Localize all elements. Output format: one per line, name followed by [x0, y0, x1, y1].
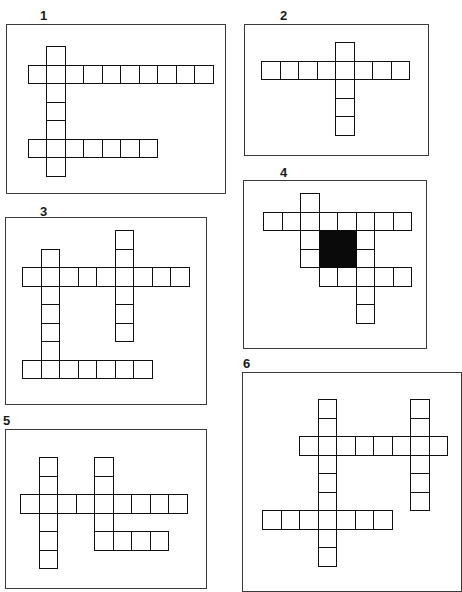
crossword-cell[interactable]: [131, 494, 151, 514]
crossword-cell[interactable]: [282, 212, 302, 232]
crossword-cell[interactable]: [139, 65, 159, 85]
crossword-cell[interactable]: [65, 139, 85, 159]
crossword-cell[interactable]: [318, 492, 338, 512]
crossword-cell[interactable]: [133, 267, 153, 287]
crossword-cell[interactable]: [94, 457, 114, 477]
crossword-cell[interactable]: [22, 267, 42, 287]
crossword-cell[interactable]: [46, 120, 66, 140]
crossword-cell[interactable]: [168, 494, 188, 514]
crossword-cell[interactable]: [41, 304, 61, 324]
crossword-cell[interactable]: [102, 139, 122, 159]
crossword-cell[interactable]: [41, 341, 61, 361]
crossword-cell[interactable]: [335, 116, 355, 136]
crossword-cell[interactable]: [410, 455, 430, 475]
crossword-cell[interactable]: [41, 360, 61, 380]
crossword-cell[interactable]: [46, 139, 66, 159]
crossword-cell[interactable]: [94, 531, 114, 551]
crossword-cell[interactable]: [115, 230, 135, 250]
crossword-cell[interactable]: [115, 360, 135, 380]
crossword-cell[interactable]: [356, 286, 376, 306]
crossword-cell[interactable]: [355, 510, 375, 530]
crossword-cell[interactable]: [120, 65, 140, 85]
crossword-cell[interactable]: [115, 304, 135, 324]
crossword-cell[interactable]: [299, 510, 319, 530]
crossword-cell[interactable]: [410, 436, 430, 456]
crossword-cell[interactable]: [318, 399, 338, 419]
crossword-cell[interactable]: [115, 267, 135, 287]
crossword-cell[interactable]: [59, 267, 79, 287]
crossword-cell[interactable]: [150, 494, 170, 514]
crossword-cell[interactable]: [393, 212, 413, 232]
crossword-cell[interactable]: [133, 360, 153, 380]
crossword-cell[interactable]: [356, 212, 376, 232]
crossword-cell[interactable]: [113, 531, 133, 551]
crossword-cell[interactable]: [335, 79, 355, 99]
crossword-cell[interactable]: [57, 494, 77, 514]
crossword-cell[interactable]: [194, 65, 214, 85]
crossword-cell[interactable]: [354, 61, 374, 81]
crossword-cell[interactable]: [22, 360, 42, 380]
crossword-cell[interactable]: [319, 267, 339, 287]
crossword-cell[interactable]: [336, 510, 356, 530]
crossword-cell[interactable]: [298, 61, 318, 81]
crossword-cell[interactable]: [410, 492, 430, 512]
crossword-cell[interactable]: [39, 476, 59, 496]
crossword-cell[interactable]: [262, 510, 282, 530]
crossword-cell[interactable]: [41, 249, 61, 269]
crossword-cell[interactable]: [28, 139, 48, 159]
crossword-cell[interactable]: [317, 61, 337, 81]
crossword-cell[interactable]: [300, 230, 320, 250]
crossword-cell[interactable]: [261, 61, 281, 81]
crossword-cell[interactable]: [410, 473, 430, 493]
crossword-cell[interactable]: [94, 513, 114, 533]
crossword-cell[interactable]: [46, 46, 66, 66]
crossword-cell[interactable]: [356, 249, 376, 269]
crossword-cell[interactable]: [300, 193, 320, 213]
crossword-cell[interactable]: [356, 267, 376, 287]
crossword-cell[interactable]: [59, 360, 79, 380]
crossword-cell[interactable]: [374, 212, 394, 232]
crossword-cell[interactable]: [170, 267, 190, 287]
crossword-cell[interactable]: [39, 513, 59, 533]
crossword-cell[interactable]: [96, 360, 116, 380]
crossword-cell[interactable]: [28, 65, 48, 85]
crossword-cell[interactable]: [76, 494, 96, 514]
crossword-cell[interactable]: [96, 267, 116, 287]
crossword-cell[interactable]: [392, 436, 412, 456]
crossword-cell[interactable]: [152, 267, 172, 287]
crossword-cell[interactable]: [113, 494, 133, 514]
crossword-cell[interactable]: [393, 267, 413, 287]
crossword-cell[interactable]: [65, 65, 85, 85]
crossword-cell[interactable]: [429, 436, 449, 456]
crossword-cell[interactable]: [318, 455, 338, 475]
crossword-cell[interactable]: [120, 139, 140, 159]
crossword-cell[interactable]: [318, 436, 338, 456]
crossword-cell[interactable]: [319, 212, 339, 232]
crossword-cell[interactable]: [46, 157, 66, 177]
crossword-cell[interactable]: [299, 436, 319, 456]
crossword-cell[interactable]: [318, 418, 338, 438]
crossword-cell[interactable]: [410, 418, 430, 438]
crossword-cell[interactable]: [139, 139, 159, 159]
crossword-cell[interactable]: [115, 323, 135, 343]
crossword-cell[interactable]: [373, 510, 393, 530]
crossword-cell[interactable]: [46, 65, 66, 85]
crossword-cell[interactable]: [318, 473, 338, 493]
crossword-cell[interactable]: [94, 476, 114, 496]
crossword-cell[interactable]: [335, 98, 355, 118]
crossword-cell[interactable]: [115, 249, 135, 269]
crossword-cell[interactable]: [335, 61, 355, 81]
crossword-cell[interactable]: [115, 286, 135, 306]
crossword-cell[interactable]: [280, 61, 300, 81]
crossword-cell[interactable]: [20, 494, 40, 514]
crossword-cell[interactable]: [300, 249, 320, 269]
crossword-cell[interactable]: [131, 531, 151, 551]
crossword-cell[interactable]: [39, 531, 59, 551]
crossword-cell[interactable]: [263, 212, 283, 232]
crossword-cell[interactable]: [373, 436, 393, 456]
crossword-cell[interactable]: [318, 529, 338, 549]
crossword-cell[interactable]: [335, 42, 355, 62]
crossword-cell[interactable]: [355, 436, 375, 456]
crossword-cell[interactable]: [356, 230, 376, 250]
crossword-cell[interactable]: [318, 547, 338, 567]
